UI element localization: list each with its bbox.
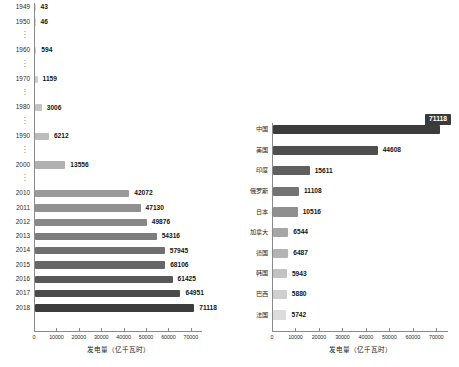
- bar: [35, 76, 38, 83]
- bar: [35, 4, 36, 11]
- ellipsis-marker: ···: [0, 31, 26, 40]
- category-label: 韩国: [218, 270, 268, 276]
- bar: [273, 146, 378, 155]
- bar-value-label: 42072: [134, 190, 152, 197]
- bar: [35, 190, 129, 197]
- bar: [35, 161, 65, 168]
- bar: [35, 133, 49, 140]
- category-label: 1970: [0, 76, 30, 82]
- x-axis-line: [34, 331, 202, 332]
- category-label: 2013: [0, 233, 30, 239]
- chart-panel-right: 010000200003000040000500006000070000发电量（…: [230, 0, 459, 367]
- category-label: 俄罗斯: [218, 188, 268, 194]
- ellipsis-marker: ···: [0, 117, 26, 126]
- bar-value-label: 71118: [199, 305, 217, 312]
- bar: [273, 187, 299, 196]
- bar: [273, 166, 310, 175]
- category-label: 1990: [0, 133, 30, 139]
- bar: [273, 290, 287, 299]
- bar-value-label: 43: [41, 4, 48, 11]
- category-label: 2014: [0, 247, 30, 253]
- ellipsis-marker: ···: [0, 89, 26, 98]
- category-label: 巴西: [218, 291, 268, 297]
- bar-value-label: 47130: [146, 205, 164, 212]
- bar: [35, 204, 141, 211]
- bar-value-label: 6544: [293, 229, 308, 236]
- bar-value-label: 1159: [43, 76, 57, 83]
- category-label: 2011: [0, 205, 30, 211]
- bar: [35, 47, 36, 54]
- bar: [35, 304, 194, 311]
- category-label: 印度: [218, 167, 268, 173]
- bar-value-label: 5742: [291, 312, 306, 319]
- bar: [35, 290, 180, 297]
- x-axis-tick: [56, 328, 57, 331]
- bar-value-label: 15611: [315, 168, 333, 175]
- ellipsis-marker: ···: [0, 60, 26, 69]
- bar-value-label: 5943: [292, 271, 307, 278]
- bar-value-label: 46: [41, 19, 48, 26]
- bar-value-label: 6487: [293, 250, 308, 257]
- category-label: 2015: [0, 262, 30, 268]
- bar-value-label: 68106: [170, 262, 188, 269]
- bar: [35, 233, 157, 240]
- category-label: 美国: [218, 147, 268, 153]
- x-axis-line: [272, 331, 448, 332]
- x-axis-tick: [79, 328, 80, 331]
- ellipsis-dot: ·: [0, 152, 26, 155]
- bar: [35, 261, 165, 268]
- bar-value-label: 44608: [383, 147, 401, 154]
- x-axis-tick: [366, 328, 367, 331]
- category-label: 2000: [0, 162, 30, 168]
- category-label: 1960: [0, 47, 30, 53]
- callout-pointer: [425, 123, 429, 127]
- bar: [273, 207, 298, 216]
- bar-value-label: 61425: [178, 276, 196, 283]
- ellipsis-dot: ·: [0, 94, 26, 97]
- bar-value-label: 57945: [170, 248, 188, 255]
- bar-value-label: 3006: [47, 105, 62, 112]
- category-label: 1949: [0, 4, 30, 10]
- plot-area-left: 010000200003000040000500006000070000发电量（…: [0, 0, 230, 367]
- category-label: 德国: [218, 250, 268, 256]
- x-axis-tick: [342, 328, 343, 331]
- x-axis-tick-label: 70000: [416, 334, 456, 340]
- category-label: 2018: [0, 305, 30, 311]
- x-axis-tick: [34, 328, 35, 331]
- x-axis-tick: [389, 328, 390, 331]
- bar-value-label: 54316: [162, 233, 180, 240]
- bar: [35, 276, 173, 283]
- x-axis-tick: [319, 328, 320, 331]
- plot-area-right: 010000200003000040000500006000070000发电量（…: [230, 0, 459, 367]
- chart-panel-left: 010000200003000040000500006000070000发电量（…: [0, 0, 230, 367]
- bar: [35, 219, 147, 226]
- ellipsis-dot: ·: [0, 123, 26, 126]
- bar-value-label: 10516: [303, 209, 321, 216]
- x-axis-title: 发电量（亿千瓦时）: [252, 344, 459, 354]
- bar: [35, 18, 36, 25]
- bar: [273, 228, 288, 237]
- bar-value-label: 594: [41, 47, 52, 54]
- figure-root: 010000200003000040000500006000070000发电量（…: [0, 0, 459, 367]
- x-axis-tick: [295, 328, 296, 331]
- ellipsis-marker: ···: [0, 174, 26, 183]
- bar-value-label: 6212: [54, 133, 69, 140]
- ellipsis-dot: ·: [0, 37, 26, 40]
- ellipsis-marker: ···: [0, 146, 26, 155]
- category-label: 日本: [218, 209, 268, 215]
- category-label: 2016: [0, 276, 30, 282]
- x-axis-tick: [124, 328, 125, 331]
- ellipsis-dot: ·: [0, 66, 26, 69]
- bar: [35, 104, 42, 111]
- category-label: 2010: [0, 190, 30, 196]
- x-axis-tick: [413, 328, 414, 331]
- bar-value-label: 49876: [152, 219, 170, 226]
- bar: [273, 249, 288, 258]
- category-label: 1980: [0, 104, 30, 110]
- category-label: 加拿大: [218, 229, 268, 235]
- bar: [35, 247, 165, 254]
- x-axis-title: 发电量（亿千瓦时）: [14, 344, 222, 354]
- x-axis-tick: [168, 328, 169, 331]
- category-label: 2017: [0, 290, 30, 296]
- bar-value-label: 64951: [185, 290, 203, 297]
